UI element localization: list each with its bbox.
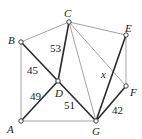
edge-c-e [69, 22, 126, 35]
edge-weight-a-d: 49 [30, 90, 42, 102]
vertex-label-g: G [92, 125, 100, 137]
edge-weight-d-g: 51 [64, 99, 75, 111]
vertex-a [19, 119, 23, 123]
edge-b-c [21, 22, 69, 42]
vertex-c [67, 20, 71, 24]
vertex-d [56, 79, 60, 83]
vertex-b [19, 40, 23, 44]
vertex-label-b: B [8, 34, 15, 46]
vertex-label-a: A [6, 123, 14, 135]
vertex-label-f: F [129, 86, 137, 98]
edge-weight-d-c: 53 [50, 42, 62, 54]
vertex-f [124, 84, 128, 88]
graph-diagram: A B C D E F G 45 53 49 51 x 42 [0, 0, 142, 139]
edge-weight-b-d: 45 [27, 64, 39, 76]
vertex-label-d: D [54, 87, 63, 99]
vertex-label-c: C [64, 7, 72, 19]
vertex-g [94, 119, 98, 123]
edge-weight-g-f: 42 [112, 104, 123, 116]
edge-weight-g-e: x [100, 68, 106, 80]
vertex-label-e: E [124, 22, 132, 34]
